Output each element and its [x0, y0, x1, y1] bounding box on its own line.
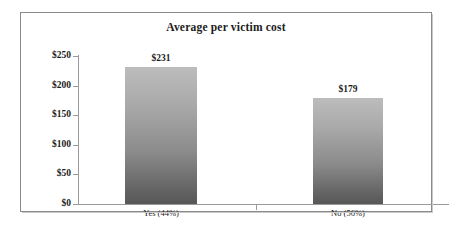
chart-frame: Average per victim cost $250 $200 $150 $…: [20, 12, 432, 212]
bar-value-label-yes: $231: [125, 54, 197, 64]
y-axis-label-100: $100: [25, 140, 71, 150]
bar-value-label-no: $179: [313, 85, 383, 95]
x-axis-category-divider-tick: [256, 205, 257, 210]
bar-no[interactable]: [313, 98, 383, 204]
bar-yes[interactable]: [125, 67, 197, 204]
x-axis-line: [78, 204, 449, 205]
y-axis-line: [78, 55, 79, 205]
chart-title: Average per victim cost: [21, 21, 431, 33]
y-axis-label-200: $200: [25, 81, 71, 91]
y-axis-label-250: $250: [25, 51, 71, 61]
x-axis-category-label-yes: Yes (44%): [115, 209, 207, 218]
y-axis-label-0: $0: [25, 199, 71, 209]
y-axis-label-50: $50: [25, 169, 71, 179]
y-axis-label-150: $150: [25, 110, 71, 120]
chart-container: Average per victim cost $250 $200 $150 $…: [0, 0, 453, 226]
x-axis-category-label-no: No (56%): [302, 209, 394, 218]
